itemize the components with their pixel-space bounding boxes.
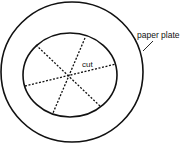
cut-label: cut bbox=[82, 60, 93, 69]
diagram-svg: cut paper plate bbox=[0, 0, 188, 146]
paper-plate-leader-line bbox=[143, 41, 153, 51]
outer-plate-rim bbox=[1, 2, 143, 142]
cut-line-2 bbox=[25, 64, 116, 86]
cut-line-3 bbox=[53, 38, 85, 113]
paper-plate-diagram: cut paper plate bbox=[0, 0, 188, 146]
paper-plate-label: paper plate bbox=[137, 30, 180, 40]
cut-lines bbox=[25, 38, 116, 113]
